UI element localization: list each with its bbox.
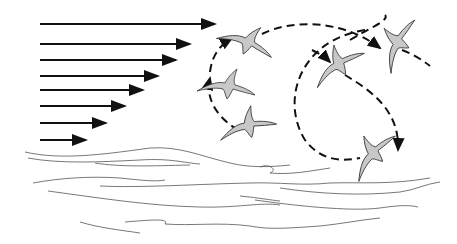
bird-lower-left-icon — [213, 100, 278, 148]
bird-center-icon — [303, 33, 367, 93]
diagram-canvas — [0, 0, 457, 244]
bird-middle-left-icon — [197, 69, 255, 99]
bird-top-left-icon — [214, 17, 278, 61]
bird-bottom-right-icon — [341, 121, 399, 186]
dynamic-soaring-diagram — [0, 0, 457, 244]
ocean-waves — [25, 148, 440, 233]
albatross-birds — [197, 11, 418, 186]
wind-gradient-arrows — [40, 24, 215, 140]
bird-top-right-icon — [370, 11, 418, 76]
